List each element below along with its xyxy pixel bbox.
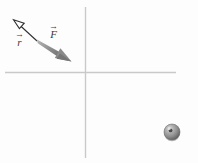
F-vector-label-text: F [49, 29, 58, 40]
particle-body [164, 124, 180, 140]
force-vector-F [37, 39, 72, 61]
particle-sphere [164, 124, 180, 141]
coordinate-axes [5, 7, 176, 158]
figure-canvas [0, 0, 198, 163]
physics-vector-figure: → r → F [0, 0, 198, 163]
F-vector-shaft [37, 39, 61, 57]
F-vector-label: → F [49, 24, 58, 40]
r-vector-label: → r [15, 32, 24, 48]
particle-highlight [168, 127, 171, 130]
